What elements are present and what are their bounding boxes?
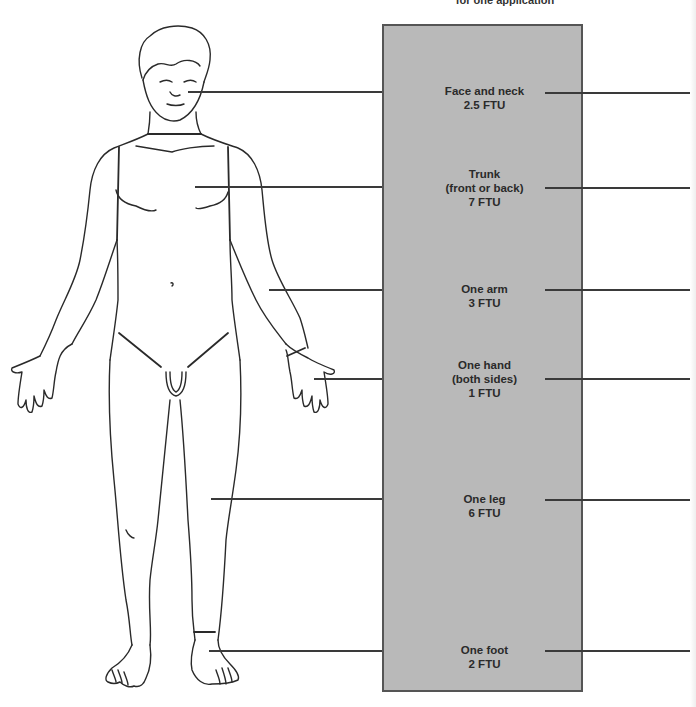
leader-arm-right bbox=[545, 289, 692, 291]
leader-leg-right bbox=[545, 499, 692, 501]
region-name: One hand bbox=[382, 358, 587, 372]
region-label-leg: One leg 6 FTU bbox=[382, 492, 587, 520]
body-figure-illustration bbox=[0, 0, 380, 707]
leader-hand-right bbox=[545, 378, 692, 380]
region-label-arm: One arm 3 FTU bbox=[382, 282, 587, 310]
region-dose: 2.5 FTU bbox=[382, 98, 587, 112]
region-name: Face and neck bbox=[382, 84, 587, 98]
region-name: Trunk bbox=[382, 167, 587, 181]
region-dose: 7 FTU bbox=[382, 195, 587, 209]
region-dose: 3 FTU bbox=[382, 296, 587, 310]
region-dose: 2 FTU bbox=[382, 657, 587, 671]
leader-foot-right bbox=[545, 650, 692, 652]
region-dose: 6 FTU bbox=[382, 506, 587, 520]
region-dose: 1 FTU bbox=[382, 386, 587, 400]
region-label-foot: One foot 2 FTU bbox=[382, 643, 587, 671]
header-title-fragment: for one application bbox=[420, 0, 590, 6]
region-label-face-neck: Face and neck 2.5 FTU bbox=[382, 84, 587, 112]
leader-trunk-right bbox=[545, 187, 692, 189]
right-edge-shadow bbox=[690, 0, 696, 707]
leader-face-right bbox=[545, 92, 692, 94]
